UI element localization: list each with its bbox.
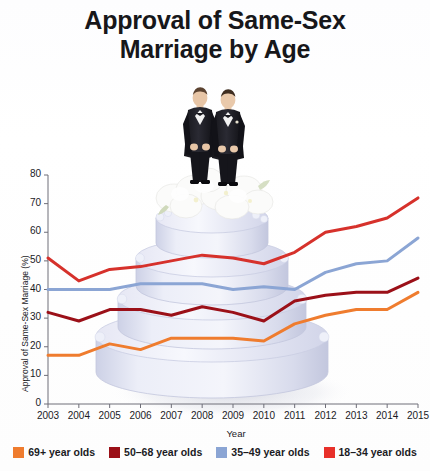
x-axis-tick-label: 2011 — [279, 410, 311, 421]
y-axis-tick-label: 70 — [0, 197, 41, 208]
y-axis-tick-label: 50 — [0, 254, 41, 265]
x-axis-tick-label: 2006 — [125, 410, 157, 421]
chart-figure: Approval of Same-Sex Marriage (%) Year 0… — [0, 0, 430, 471]
y-axis-tick-label: 80 — [0, 168, 41, 179]
chart-legend: 69+ year olds50–68 year olds35–49 year o… — [0, 446, 430, 458]
x-axis-tick-label: 2012 — [310, 410, 342, 421]
legend-label: 18–34 year olds — [339, 446, 417, 458]
legend-item[interactable]: 50–68 year olds — [109, 446, 202, 458]
x-axis-tick-label: 2014 — [371, 410, 403, 421]
legend-swatch — [13, 447, 24, 458]
x-axis-tick-label: 2008 — [186, 410, 218, 421]
legend-swatch — [324, 447, 335, 458]
y-axis-tick-label: 40 — [0, 283, 41, 294]
chart-plot-area — [0, 0, 430, 471]
x-axis-tick-label: 2007 — [155, 410, 187, 421]
y-axis-tick-label: 0 — [0, 397, 41, 408]
x-axis-tick-label: 2010 — [248, 410, 280, 421]
chart-page: Approval of Same-Sex Marriage by Age — [0, 0, 430, 471]
legend-label: 69+ year olds — [28, 446, 95, 458]
legend-label: 50–68 year olds — [124, 446, 202, 458]
legend-swatch — [216, 447, 227, 458]
x-axis-tick-label: 2015 — [402, 410, 430, 421]
series-line-18-34-year-olds — [48, 198, 418, 281]
x-axis-tick-label: 2004 — [63, 410, 95, 421]
x-axis-title: Year — [46, 428, 426, 439]
legend-label: 35–49 year olds — [231, 446, 309, 458]
x-axis-tick-label: 2003 — [32, 410, 64, 421]
series-line-50-68-year-olds — [48, 278, 418, 321]
legend-item[interactable]: 18–34 year olds — [324, 446, 417, 458]
y-axis-tick-label: 20 — [0, 340, 41, 351]
legend-swatch — [109, 447, 120, 458]
series-line-35-49-year-olds — [48, 238, 418, 290]
series-line-69-year-olds — [48, 292, 418, 355]
x-axis-tick-label: 2013 — [340, 410, 372, 421]
legend-item[interactable]: 35–49 year olds — [216, 446, 309, 458]
legend-item[interactable]: 69+ year olds — [13, 446, 95, 458]
x-axis-tick-label: 2005 — [94, 410, 126, 421]
y-axis-tick-label: 30 — [0, 311, 41, 322]
x-axis-tick-label: 2009 — [217, 410, 249, 421]
y-axis-tick-label: 60 — [0, 225, 41, 236]
y-axis-tick-label: 10 — [0, 368, 41, 379]
